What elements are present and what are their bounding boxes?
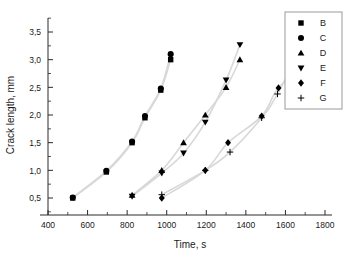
y-tick-label: 2,5: [29, 83, 41, 93]
data-point-c: [129, 139, 135, 145]
data-point-b: [168, 57, 173, 62]
legend-marker-b: [298, 20, 303, 25]
x-tick-label: 1600: [276, 220, 295, 230]
data-point-c: [142, 113, 148, 119]
x-tick-label: 1800: [316, 220, 335, 230]
x-tick-label: 400: [41, 220, 55, 230]
y-tick-label: 3,0: [29, 55, 41, 65]
data-point-c: [158, 85, 164, 91]
legend-label-g: G: [319, 93, 326, 103]
data-point-c: [168, 51, 174, 57]
legend-label-b: B: [320, 18, 326, 28]
y-tick-label: 3,5: [29, 27, 41, 37]
x-tick-label: 800: [120, 220, 134, 230]
y-tick-label: 0,5: [29, 193, 41, 203]
legend-box: [285, 12, 342, 109]
y-axis-title: Crack length, mm: [5, 76, 16, 154]
data-point-d: [237, 56, 244, 62]
chart-canvas: 400600800100012001400160018000,51,01,52,…: [0, 0, 347, 263]
x-tick-label: 600: [80, 220, 94, 230]
legend-label-f: F: [320, 78, 326, 88]
y-tick-label: 1,5: [29, 138, 41, 148]
y-tick-label: 2,0: [29, 110, 41, 120]
data-point-c: [103, 168, 109, 174]
x-tick-label: 1200: [197, 220, 216, 230]
data-point-c: [70, 194, 76, 200]
fit-curve-e: [132, 45, 240, 197]
data-point-e: [237, 42, 244, 48]
x-tick-label: 1000: [157, 220, 176, 230]
legend-label-c: C: [320, 33, 327, 43]
y-tick-label: 1,0: [29, 166, 41, 176]
x-tick-label: 1400: [236, 220, 255, 230]
crack-growth-chart: 400600800100012001400160018000,51,01,52,…: [0, 0, 347, 263]
legend-label-e: E: [320, 63, 326, 73]
legend-marker-c: [298, 35, 304, 41]
fit-curve-d: [132, 60, 240, 196]
x-axis-title: Time, s: [174, 239, 206, 250]
legend-label-d: D: [320, 48, 327, 58]
